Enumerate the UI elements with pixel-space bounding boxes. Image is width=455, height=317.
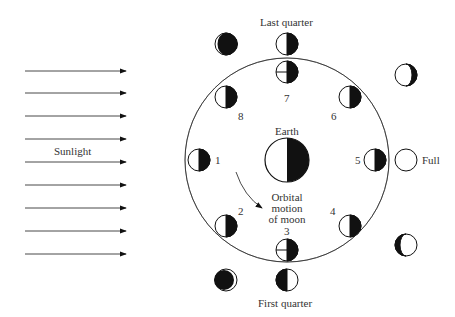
position-number-8: 8	[238, 111, 244, 122]
full-label: Full	[422, 155, 440, 166]
position-number-7: 7	[284, 93, 290, 104]
position-number-4: 4	[330, 206, 336, 217]
orbital-motion-label-3: of moon	[262, 214, 312, 225]
moon-position-1-icon	[188, 149, 210, 171]
moon-position-8-icon	[215, 86, 237, 108]
earth-label: Earth	[275, 126, 299, 137]
moon-position-6-icon	[339, 86, 361, 108]
waxing-crescent-moon-icon	[214, 269, 237, 291]
position-number-5: 5	[355, 155, 361, 166]
last-quarter-label: Last quarter	[260, 17, 313, 28]
waning-gibbous-moon-icon	[395, 64, 417, 86]
sunlight-arrows	[25, 71, 126, 254]
position-number-2: 2	[238, 206, 244, 217]
orbital-motion-arrow	[236, 172, 262, 208]
sunlight-label: Sunlight	[54, 146, 91, 157]
position-number-1: 1	[215, 155, 221, 166]
earth-icon	[265, 138, 309, 182]
last-quarter-moon-icon	[276, 33, 298, 55]
first-quarter-moon-icon	[276, 269, 298, 291]
moon-phase-diagram	[0, 0, 455, 317]
waning-crescent-moon-icon	[215, 33, 238, 55]
position-number-6: 6	[331, 111, 337, 122]
first-quarter-label: First quarter	[258, 298, 312, 309]
moon-position-5-icon	[364, 149, 386, 171]
full-moon-icon	[395, 149, 417, 171]
moon-position-7-icon	[276, 61, 298, 83]
moon-position-2-icon	[215, 215, 237, 237]
waxing-gibbous-moon-icon	[395, 234, 417, 256]
position-number-3: 3	[284, 226, 290, 237]
moon-position-3-icon	[276, 239, 298, 261]
